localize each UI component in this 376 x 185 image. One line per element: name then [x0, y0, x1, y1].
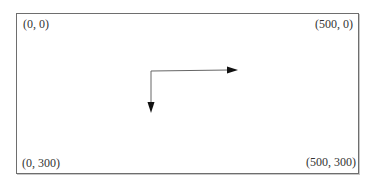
axis-arrows	[0, 0, 376, 185]
y-axis-arrow-icon	[148, 71, 155, 113]
x-axis-arrow-icon	[151, 67, 238, 74]
